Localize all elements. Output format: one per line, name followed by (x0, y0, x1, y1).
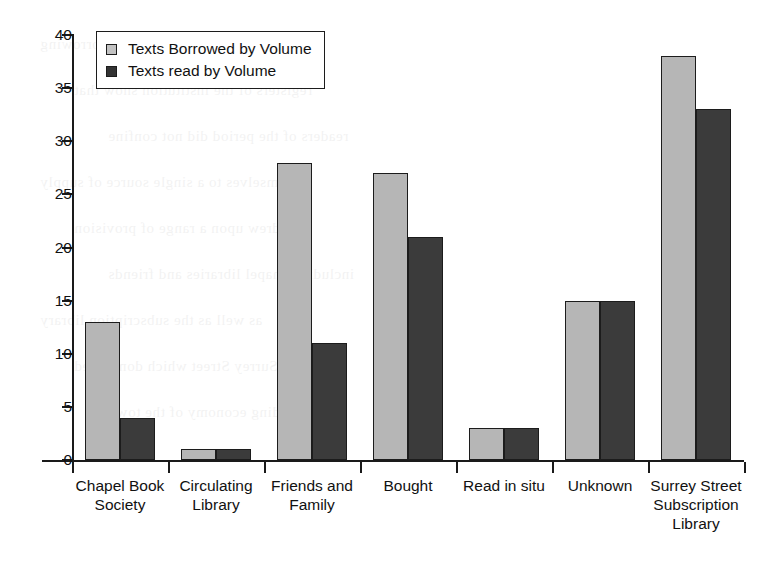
bar-group (360, 35, 456, 460)
bar (373, 173, 408, 460)
x-axis-tick (552, 462, 554, 473)
legend-label-read: Texts read by Volume (128, 63, 276, 79)
bar (408, 237, 443, 460)
bar-group (456, 35, 552, 460)
legend-entry-borrowed: Texts Borrowed by Volume (106, 38, 312, 60)
chart-legend: Texts Borrowed by Volume Texts read by V… (96, 31, 325, 89)
legend-swatch-light-square-icon (106, 44, 117, 55)
bar-group (72, 35, 168, 460)
category-label-line: Family (250, 495, 374, 514)
bar (85, 322, 120, 460)
category-label-line: Library (634, 514, 758, 533)
y-axis-tick-label: 25 (40, 186, 72, 201)
y-axis-tick-label: 10 (40, 346, 72, 361)
bar (277, 163, 312, 461)
bar (469, 428, 504, 460)
bar-group (648, 35, 744, 460)
category-label-line: Surrey Street (634, 476, 758, 495)
y-axis-tick-label: 30 (40, 133, 72, 148)
x-axis-tick (264, 462, 266, 473)
bar (181, 449, 216, 460)
legend-label-borrowed: Texts Borrowed by Volume (128, 41, 312, 57)
legend-swatch-dark-square-icon (106, 66, 117, 77)
x-axis-tick (744, 462, 746, 473)
y-axis-tick-label: 20 (40, 240, 72, 255)
y-axis-tick-label: 5 (40, 399, 72, 414)
y-axis-tick-label: 15 (40, 293, 72, 308)
x-axis-tick (456, 462, 458, 473)
bar (504, 428, 539, 460)
x-axis-tick (168, 462, 170, 473)
bar (120, 418, 155, 461)
x-axis-tick (360, 462, 362, 473)
x-axis-line (42, 460, 744, 462)
bar-group (264, 35, 360, 460)
bar (600, 301, 635, 460)
bar (216, 449, 251, 460)
bar (565, 301, 600, 460)
bar-group (552, 35, 648, 460)
y-axis-tick-label: 40 (40, 27, 72, 42)
y-axis-tick-label: 0 (40, 452, 72, 467)
bar (696, 109, 731, 460)
bar (312, 343, 347, 460)
y-axis-tick-label: 35 (40, 80, 72, 95)
x-axis-tick (72, 462, 74, 473)
bar (661, 56, 696, 460)
plot-area (72, 35, 744, 460)
x-axis-category-label: Surrey StreetSubscriptionLibrary (634, 476, 758, 533)
category-label-line: Subscription (634, 495, 758, 514)
bar-chart: the volumes recorded in the borrowingreg… (0, 0, 772, 561)
legend-entry-read: Texts read by Volume (106, 60, 312, 82)
bar-group (168, 35, 264, 460)
x-axis-tick (648, 462, 650, 473)
